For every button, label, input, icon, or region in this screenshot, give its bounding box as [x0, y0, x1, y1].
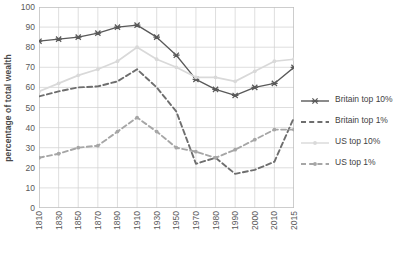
y-axis-tick: 20: [26, 163, 35, 173]
data-series-layer: [39, 22, 294, 173]
legend-swatch-icon: [300, 135, 330, 147]
data-point-marker: [39, 156, 41, 160]
data-point-marker: [155, 57, 159, 61]
x-axis-tick: 1870: [93, 211, 103, 230]
legend-item-label: Britain top 1%: [335, 115, 388, 125]
series-line: [39, 47, 294, 91]
data-point-marker: [233, 148, 237, 152]
plot-area: [39, 7, 294, 208]
legend-item[interactable]: Britain top 1%: [300, 109, 410, 130]
x-axis-tick: 1830: [54, 211, 64, 230]
x-axis-tick: 1850: [73, 211, 83, 230]
legend-swatch-icon: [300, 93, 330, 105]
data-point-marker: [194, 150, 198, 154]
data-point-marker: [76, 73, 80, 77]
data-point-marker: [96, 144, 100, 148]
plot-svg: [39, 7, 294, 208]
wealth-share-line-chart: percentage of total wealth 0102030405060…: [0, 0, 410, 256]
data-point-marker: [233, 79, 237, 83]
data-point-marker: [214, 156, 218, 160]
data-point-marker: [292, 128, 294, 132]
x-axis-tick-labels: 1810183018501870189019101930195019701980…: [39, 209, 294, 256]
data-point-marker: [57, 81, 61, 85]
series-britain-top-1: [39, 69, 294, 174]
y-axis-tick: 100: [21, 2, 35, 12]
y-axis-tick: 50: [26, 103, 35, 113]
data-point-marker: [96, 67, 100, 71]
data-point-marker: [292, 57, 294, 61]
y-axis-tick: 80: [26, 42, 35, 52]
x-axis-tick: 1930: [152, 211, 162, 230]
x-axis-tick: 1890: [112, 211, 122, 230]
series-line: [39, 69, 294, 174]
data-point-marker: [57, 152, 61, 156]
x-axis-tick: 1810: [34, 211, 44, 230]
data-point-marker: [174, 146, 178, 150]
x-axis-tick: 1990: [230, 211, 240, 230]
x-axis-tick: 1970: [191, 211, 201, 230]
x-axis-tick: 1950: [171, 211, 181, 230]
data-point-marker: [272, 128, 276, 132]
legend-item[interactable]: US top 10%: [300, 130, 410, 151]
x-axis-tick: 1980: [211, 211, 221, 230]
x-axis-tick: 2000: [250, 211, 260, 230]
legend-item-label: Britain top 10%: [335, 94, 393, 104]
y-axis-tick: 90: [26, 22, 35, 32]
y-axis-tick: 30: [26, 143, 35, 153]
data-point-marker: [155, 130, 159, 134]
series-line: [39, 118, 294, 158]
data-point-marker: [135, 116, 139, 120]
y-axis-tick: 70: [26, 62, 35, 72]
data-point-marker: [135, 45, 139, 49]
data-point-marker: [194, 75, 198, 79]
data-point-marker: [116, 59, 120, 63]
legend-item[interactable]: US top 1%: [300, 151, 410, 172]
data-point-marker: [253, 138, 257, 142]
data-point-marker: [253, 69, 257, 73]
chart-legend: Britain top 10%Britain top 1%US top 10%U…: [300, 88, 410, 172]
x-axis-tick: 2010: [269, 211, 279, 230]
legend-item-label: US top 10%: [335, 136, 380, 146]
series-us-top-1: [39, 116, 294, 160]
legend-item[interactable]: Britain top 10%: [300, 88, 410, 109]
x-axis-tick: 1910: [132, 211, 142, 230]
y-axis-tick: 10: [26, 183, 35, 193]
y-axis-title-label: percentage of total wealth: [3, 54, 13, 161]
data-point-marker: [272, 59, 276, 63]
data-point-marker: [76, 146, 80, 150]
y-axis-tick-labels: 0102030405060708090100: [14, 0, 38, 215]
legend-item-label: US top 1%: [335, 157, 376, 167]
series-britain-top-10: [39, 22, 294, 98]
data-point-marker: [116, 130, 120, 134]
y-axis-tick: 60: [26, 82, 35, 92]
legend-swatch-icon: [300, 156, 330, 168]
legend-swatch-icon: [300, 114, 330, 126]
y-axis-tick: 40: [26, 123, 35, 133]
x-axis-tick: 2015: [289, 211, 299, 230]
data-point-marker: [174, 65, 178, 69]
data-point-marker: [214, 75, 218, 79]
